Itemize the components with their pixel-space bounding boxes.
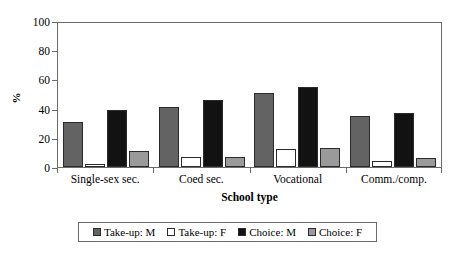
bar: [394, 113, 414, 167]
bar: [254, 93, 274, 167]
legend-swatch-icon: [238, 228, 246, 236]
legend-item: Choice: M: [238, 226, 296, 238]
x-tick-label: Vocational: [250, 173, 346, 185]
legend-label: Take-up: F: [178, 226, 226, 238]
y-axis-tick-marks: [0, 0, 57, 168]
bar: [320, 148, 340, 167]
bar: [107, 110, 127, 167]
chart-legend: Take-up: MTake-up: FChoice: MChoice: F: [78, 222, 377, 242]
bar: [276, 149, 296, 167]
bar: [129, 151, 149, 167]
legend-item: Take-up: M: [93, 226, 155, 238]
bar: [63, 122, 83, 167]
legend-swatch-icon: [167, 228, 175, 236]
bar: [203, 100, 223, 167]
bar-groups: [58, 23, 441, 167]
bar: [225, 157, 245, 167]
legend-label: Take-up: M: [104, 226, 155, 238]
legend-item: Take-up: F: [167, 226, 226, 238]
bar: [85, 164, 105, 167]
bar: [350, 116, 370, 167]
bar-chart-figure: % 020406080100 Single-sex sec.Coed sec.V…: [0, 0, 454, 259]
legend-label: Choice: M: [249, 226, 296, 238]
bar-group: [345, 23, 441, 167]
bar: [372, 161, 392, 167]
legend-swatch-icon: [308, 228, 316, 236]
bar: [416, 158, 436, 167]
bar-group: [154, 23, 250, 167]
bar-group: [58, 23, 154, 167]
bar: [181, 157, 201, 167]
legend-label: Choice: F: [319, 226, 362, 238]
legend-item: Choice: F: [308, 226, 362, 238]
bar-group: [250, 23, 346, 167]
legend-swatch-icon: [93, 228, 101, 236]
x-tick-label: Comm./comp.: [346, 173, 442, 185]
x-axis-tick-labels: Single-sex sec.Coed sec.VocationalComm./…: [57, 173, 442, 185]
plot-area: [57, 22, 442, 168]
x-tick-label: Coed sec.: [153, 173, 249, 185]
x-axis-title: School type: [57, 191, 442, 203]
x-tick-label: Single-sex sec.: [57, 173, 153, 185]
bar: [159, 107, 179, 167]
bar: [298, 87, 318, 167]
